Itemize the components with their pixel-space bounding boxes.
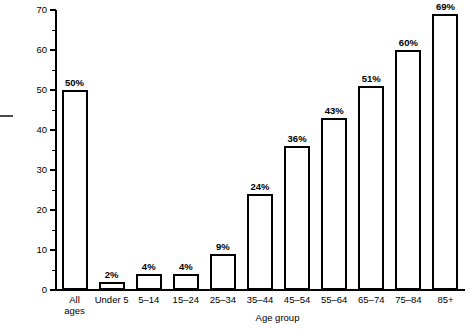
y-axis-minor-tick xyxy=(52,150,56,151)
y-axis-tick-mark xyxy=(50,209,56,211)
x-axis-category-line1: 75–84 xyxy=(395,294,421,305)
x-axis-category-label: 65–74 xyxy=(353,294,390,305)
y-axis-tick-mark xyxy=(50,9,56,11)
bar: 24% xyxy=(247,194,273,290)
bar-rect xyxy=(321,118,347,290)
bar-value-label: 36% xyxy=(288,134,307,144)
x-axis-category-label: 35–44 xyxy=(241,294,278,305)
x-axis-category-line1: 25–34 xyxy=(210,294,236,305)
bar-rect xyxy=(99,282,125,290)
bar: 36% xyxy=(284,146,310,290)
y-axis-tick-label: 20 xyxy=(36,205,47,215)
bar-value-label: 4% xyxy=(142,262,156,272)
x-axis-category-label: 55–64 xyxy=(316,294,353,305)
y-axis-tick-label: 0 xyxy=(42,285,47,295)
bar-value-label: 69% xyxy=(436,2,455,12)
y-axis-minor-tick xyxy=(52,230,56,231)
x-axis-category-label: Allages xyxy=(56,294,93,316)
bar-rect xyxy=(62,90,88,290)
bar-rect xyxy=(247,194,273,290)
x-axis-category-line1: 85+ xyxy=(437,294,453,305)
y-axis-tick-mark xyxy=(50,249,56,251)
bar-value-label: 50% xyxy=(65,78,84,88)
bar: 4% xyxy=(136,274,162,290)
x-axis-category-label: 45–54 xyxy=(279,294,316,305)
bar-rect xyxy=(284,146,310,290)
bar-value-label: 9% xyxy=(216,242,230,252)
y-axis-minor-tick xyxy=(52,70,56,71)
x-axis-category-line1: 45–54 xyxy=(284,294,310,305)
bar-rect xyxy=(432,14,458,290)
plot-area: 01020304050607050%2%4%4%9%24%36%43%51%60… xyxy=(56,10,464,290)
bar: 50% xyxy=(62,90,88,290)
bar-value-label: 43% xyxy=(325,106,344,116)
bar-value-label: 60% xyxy=(399,38,418,48)
x-axis-category-line1: 15–24 xyxy=(173,294,199,305)
x-axis-category-label: Under 5 xyxy=(93,294,130,305)
bar-rect xyxy=(136,274,162,290)
bar: 43% xyxy=(321,118,347,290)
x-axis-category-line1: 5–14 xyxy=(138,294,159,305)
x-axis-category-line1: Under 5 xyxy=(95,294,129,305)
bar: 60% xyxy=(395,50,421,290)
x-axis-title-text: Age group xyxy=(256,312,300,323)
x-axis-category-line2: ages xyxy=(56,305,93,316)
y-axis-tick-label: 40 xyxy=(36,125,47,135)
y-axis-tick-label: 50 xyxy=(36,85,47,95)
bar: 2% xyxy=(99,282,125,290)
x-axis-category-line1: 55–64 xyxy=(321,294,347,305)
x-axis-category-line1: 65–74 xyxy=(358,294,384,305)
scan-artifact-line xyxy=(0,115,13,117)
x-axis-category-line1: 35–44 xyxy=(247,294,273,305)
bar-value-label: 24% xyxy=(250,182,269,192)
x-axis-category-label: 25–34 xyxy=(204,294,241,305)
y-axis-tick-mark xyxy=(50,129,56,131)
y-axis-tick-mark xyxy=(50,49,56,51)
bar-rect xyxy=(358,86,384,290)
y-axis-tick-mark xyxy=(50,89,56,91)
bar-rect xyxy=(173,274,199,290)
y-axis-minor-tick xyxy=(52,30,56,31)
bar: 51% xyxy=(358,86,384,290)
y-axis-tick-label: 10 xyxy=(36,245,47,255)
bar-rect xyxy=(395,50,421,290)
y-axis-minor-tick xyxy=(52,190,56,191)
bar-value-label: 2% xyxy=(105,270,119,280)
x-axis-category-label: 5–14 xyxy=(130,294,167,305)
bar-value-label: 51% xyxy=(362,74,381,84)
y-axis-tick-label: 30 xyxy=(36,165,47,175)
bar-value-label: 4% xyxy=(179,262,193,272)
y-axis-minor-tick xyxy=(52,110,56,111)
x-axis-category-label: 15–24 xyxy=(167,294,204,305)
bar: 9% xyxy=(210,254,236,290)
y-axis-tick-mark xyxy=(50,169,56,171)
bar: 69% xyxy=(432,14,458,290)
x-axis-category-label: 85+ xyxy=(427,294,464,305)
x-axis-category-label: 75–84 xyxy=(390,294,427,305)
bar-rect xyxy=(210,254,236,290)
x-axis-category-line1: All xyxy=(69,294,80,305)
y-axis-tick-mark xyxy=(50,289,56,291)
y-axis-minor-tick xyxy=(52,270,56,271)
bar-chart: Percent Age group 01020304050607050%2%4%… xyxy=(0,0,469,330)
y-axis-tick-label: 60 xyxy=(36,45,47,55)
y-axis-tick-label: 70 xyxy=(36,5,47,15)
bar: 4% xyxy=(173,274,199,290)
